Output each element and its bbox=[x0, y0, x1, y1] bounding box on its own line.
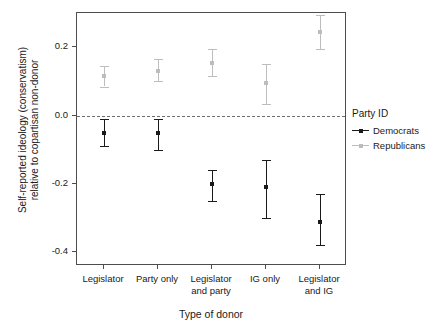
chart-figure: Self-reported ideology (conservatism) re… bbox=[0, 0, 438, 333]
legend-key-dot bbox=[359, 144, 363, 148]
data-point bbox=[318, 220, 322, 224]
legend-item-label: Republicans bbox=[369, 140, 425, 151]
error-bar-cap-lower bbox=[262, 104, 271, 105]
error-bar-cap-upper bbox=[100, 119, 109, 120]
y-axis-tick-label: -0.2 bbox=[52, 178, 68, 188]
data-point bbox=[264, 81, 268, 85]
data-point bbox=[156, 131, 160, 135]
error-bar-cap-lower bbox=[154, 81, 163, 82]
legend: Party ID DemocratsRepublicans bbox=[352, 108, 438, 153]
zero-reference-line bbox=[77, 116, 345, 117]
x-axis-tick-mark bbox=[157, 265, 158, 269]
data-point bbox=[264, 185, 268, 189]
legend-item[interactable]: Democrats bbox=[352, 123, 438, 138]
error-bar-cap-upper bbox=[100, 66, 109, 67]
legend-key-dot bbox=[359, 129, 363, 133]
error-bar-cap-upper bbox=[208, 170, 217, 171]
error-bar-cap-lower bbox=[100, 87, 109, 88]
data-point bbox=[102, 131, 106, 135]
error-bar-cap-lower bbox=[208, 76, 217, 77]
x-axis-tick-mark bbox=[319, 265, 320, 269]
error-bar-cap-lower bbox=[262, 218, 271, 219]
data-point bbox=[210, 61, 214, 65]
legend-title: Party ID bbox=[352, 108, 438, 119]
error-bar-cap-lower bbox=[316, 49, 325, 50]
plot-panel bbox=[76, 12, 346, 265]
y-axis-tick-label: 0.0 bbox=[55, 110, 68, 120]
error-bar-cap-lower bbox=[100, 146, 109, 147]
error-bar-cap-upper bbox=[262, 64, 271, 65]
error-bar-cap-upper bbox=[316, 15, 325, 16]
legend-key-icon bbox=[352, 123, 369, 138]
x-axis-tick-label: Legislator and IG bbox=[274, 273, 364, 296]
x-axis-title: Type of donor bbox=[76, 308, 346, 320]
y-axis-title: Self-reported ideology (conservatism) re… bbox=[17, 5, 41, 255]
error-bar-cap-upper bbox=[316, 194, 325, 195]
legend-key-icon bbox=[352, 138, 369, 153]
error-bar-cap-upper bbox=[154, 59, 163, 60]
data-point bbox=[156, 69, 160, 73]
error-bar-cap-upper bbox=[262, 160, 271, 161]
x-axis-tick-mark bbox=[265, 265, 266, 269]
y-axis-tick-label: 0.2 bbox=[55, 41, 68, 51]
legend-item-label: Democrats bbox=[369, 125, 419, 136]
legend-item[interactable]: Republicans bbox=[352, 138, 438, 153]
error-bar-cap-lower bbox=[208, 201, 217, 202]
y-axis-tick-label: -0.4 bbox=[52, 246, 68, 256]
data-point bbox=[318, 30, 322, 34]
data-point bbox=[102, 74, 106, 78]
data-point bbox=[210, 182, 214, 186]
x-axis-tick-mark bbox=[103, 265, 104, 269]
error-bar-cap-upper bbox=[154, 119, 163, 120]
error-bar-cap-lower bbox=[154, 150, 163, 151]
error-bar-cap-lower bbox=[316, 245, 325, 246]
error-bar-cap-upper bbox=[208, 49, 217, 50]
x-axis-tick-mark bbox=[211, 265, 212, 269]
legend-items: DemocratsRepublicans bbox=[352, 123, 438, 153]
